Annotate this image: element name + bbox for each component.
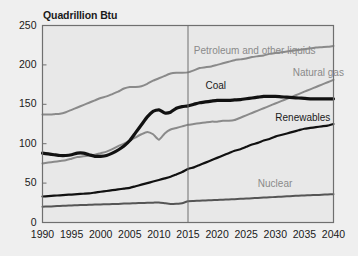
y-axis-tick-label: 50 bbox=[9, 176, 37, 188]
series-label-nuclear: Nuclear bbox=[258, 178, 292, 189]
y-axis-tick-label: 150 bbox=[9, 97, 37, 109]
x-axis-tick-label: 2040 bbox=[317, 228, 351, 240]
y-axis-tick-label: 0 bbox=[9, 216, 37, 228]
y-axis-tick-label: 250 bbox=[9, 19, 37, 31]
series-label-renewables: Renewables bbox=[275, 112, 330, 123]
series-label-natural-gas: Natural gas bbox=[293, 67, 344, 78]
series-label-petroleum-and-other-liquids: Petroleum and other liquids bbox=[194, 45, 316, 56]
y-axis-tick-label: 100 bbox=[9, 137, 37, 149]
series-label-coal: Coal bbox=[205, 80, 226, 91]
y-axis-tick-label: 200 bbox=[9, 58, 37, 70]
energy-consumption-chart: Quadrillion Btu 050100150200250 19901995… bbox=[0, 0, 358, 256]
plot-area bbox=[0, 0, 358, 256]
